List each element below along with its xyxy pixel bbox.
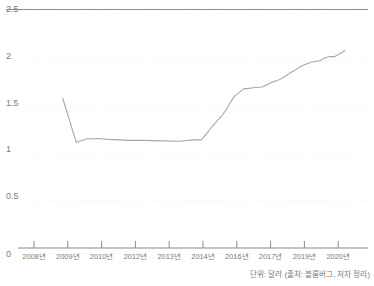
chart-plot-area [0,0,374,286]
x-axis-ticks [34,241,338,248]
x-axis-tick-label: 2009년 [56,252,79,261]
y-axis-tick-label: 1 [6,144,11,154]
line-chart: 00.511.522.5 2008년2009년2010년2012년2013년20… [0,0,374,286]
x-axis-tick-label: 2019년 [293,252,316,261]
x-axis-tick-label: 2017년 [259,252,282,261]
y-axis-tick-label: 2 [6,51,11,61]
x-axis-tick-label: 2020년 [326,252,349,261]
y-axis-tick-label: 1.5 [6,98,19,108]
x-axis-tick-label: 2010년 [90,252,113,261]
y-axis-tick-label: 0.5 [6,191,19,201]
gridlines [28,14,368,201]
x-axis-tick-label: 2016년 [225,252,248,261]
data-series-line [63,51,345,143]
y-axis-tick-label: 0 [6,249,11,259]
x-axis-tick-label: 2014년 [191,252,214,261]
source-note: 단위: 달러 (출처: 블룸버그, 저자 정리) [250,268,370,279]
x-axis-tick-label: 2008년 [22,252,45,261]
x-axis-tick-label: 2013년 [157,252,180,261]
y-axis-tick-label: 2.5 [6,4,19,14]
x-axis-tick-label: 2012년 [124,252,147,261]
